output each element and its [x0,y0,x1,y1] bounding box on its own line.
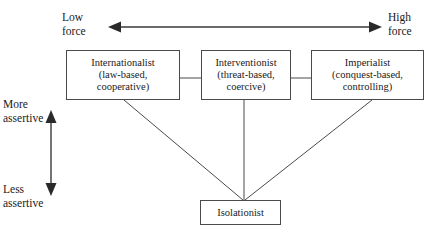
diagram-canvas: Low force High force More assertive Less… [0,0,436,231]
horizontal-force-axis-arrow [108,22,382,33]
axis-label-low-force: Low force [62,11,86,38]
node-isolationist[interactable]: Isolationist [200,200,281,225]
node-interventionist[interactable]: Interventionist (threat-based, coercive) [201,50,291,100]
connector-internationalist-isolationist [124,100,243,200]
connector-imperialist-isolationist [245,100,372,200]
axis-label-high-force: High force [388,11,412,38]
node-imperialist[interactable]: Imperialist (conquest-based, controlling… [311,50,424,100]
vertical-assertiveness-axis-arrow [46,110,57,196]
node-internationalist[interactable]: Internationalist (law-based, cooperative… [66,50,180,100]
axis-label-more-assertive: More assertive [3,98,43,125]
axis-label-less-assertive: Less assertive [3,183,43,210]
